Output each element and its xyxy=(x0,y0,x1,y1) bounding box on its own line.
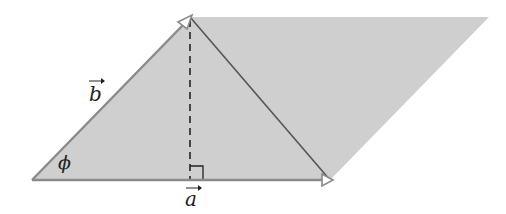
label-phi: ϕ xyxy=(58,151,71,173)
label-b: b xyxy=(89,78,105,106)
label-a: a xyxy=(185,185,202,211)
svg-text:a: a xyxy=(185,187,197,211)
svg-text:b: b xyxy=(89,82,102,106)
parallelogram-diagram: b ϕ a xyxy=(0,0,506,214)
svg-text:ϕ: ϕ xyxy=(58,151,71,173)
